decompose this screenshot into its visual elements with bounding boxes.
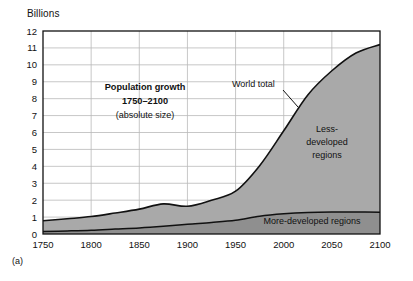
annotation-world-total: World total <box>232 79 275 89</box>
chart-subtitle: (absolute size) <box>116 110 175 120</box>
y-axis-unit-label: Billions <box>27 8 59 19</box>
y-axis-tick-labels: 0123456789101112 <box>26 26 37 240</box>
y-tick-label: 8 <box>32 93 37 104</box>
y-tick-label: 5 <box>32 144 37 155</box>
x-tick-label: 1800 <box>81 239 102 250</box>
y-tick-label: 7 <box>32 110 37 121</box>
x-tick-label: 1850 <box>129 239 150 250</box>
y-tick-label: 0 <box>32 229 37 240</box>
population-growth-area-chart: 0123456789101112 17501800185019001950200… <box>0 0 413 281</box>
x-axis-tick-labels: 17501800185019001950200020502100 <box>32 239 390 250</box>
panel-caption: (a) <box>12 256 23 266</box>
x-tick-label: 2050 <box>321 239 342 250</box>
y-tick-label: 9 <box>32 76 37 87</box>
figure-panel: Billions (a) 0123456789101112 1750180018… <box>0 0 413 281</box>
x-tick-label: 1900 <box>177 239 198 250</box>
annotation-more-developed: More-developed regions <box>263 216 361 226</box>
chart-title-line-1: Population growth <box>105 82 186 92</box>
x-tick-label: 1950 <box>225 239 246 250</box>
annotation-less-developed-line2: developed <box>306 137 348 147</box>
y-tick-label: 2 <box>32 195 37 206</box>
y-tick-label: 6 <box>32 127 37 138</box>
annotation-less-developed-line3: regions <box>312 150 342 160</box>
y-tick-label: 3 <box>32 178 37 189</box>
x-tick-label: 2000 <box>273 239 294 250</box>
x-tick-label: 2100 <box>369 239 390 250</box>
y-tick-label: 11 <box>27 42 37 53</box>
y-tick-label: 1 <box>32 212 37 223</box>
annotation-less-developed-line1: Less- <box>316 124 338 134</box>
y-tick-label: 10 <box>26 59 37 70</box>
y-tick-label: 4 <box>32 161 37 172</box>
x-tick-label: 1750 <box>32 239 53 250</box>
chart-title-line-2: 1750–2100 <box>122 96 168 106</box>
y-tick-label: 12 <box>26 26 37 37</box>
